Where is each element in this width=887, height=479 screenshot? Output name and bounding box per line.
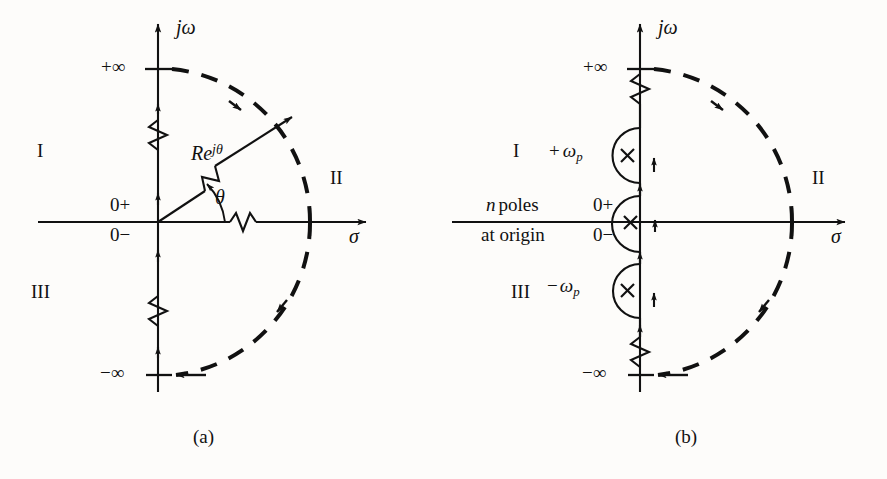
panel-a-arc-arrow-upper <box>229 101 241 110</box>
panel-b-plus-omega-p-sign: + <box>549 140 560 161</box>
panel-b-dashed-arc-upper <box>654 69 792 222</box>
panel-a-minus-infinity-label: −∞ <box>100 362 124 384</box>
panel-b-n-poles-label: npoles <box>486 194 539 216</box>
panel-a-radius-vector-exponent: jθ <box>212 142 223 157</box>
panel-a-radius-vector <box>158 117 292 222</box>
panel-b-plus-omega-p-label: +ωp <box>549 140 583 165</box>
panel-a-caption: (a) <box>193 426 214 448</box>
pole-marker-plus-omega-p <box>621 149 634 162</box>
panel-b-jomega-axis-label: jω <box>658 16 678 39</box>
nyquist-contour-figure <box>0 0 887 479</box>
panel-b-indented-contour <box>612 74 649 367</box>
panel-b-caption: (b) <box>675 426 697 448</box>
panel-b-minus-omega-p-subscript: p <box>573 284 579 299</box>
panel-b-plus-omega-p-subscript: p <box>576 149 582 164</box>
panel-b-zero-plus-label: 0+ <box>593 194 613 216</box>
panel-b-at-origin-label: at origin <box>481 224 545 246</box>
panel-b-minus-omega-p-symbol: ω <box>560 275 573 296</box>
panel-a-dashed-arc-lower <box>176 222 310 375</box>
panel-b-plus-infinity-label: +∞ <box>583 56 607 78</box>
panel-b-plus-omega-p-symbol: ω <box>563 140 576 161</box>
panel-a-sigma-axis-label: σ <box>349 225 359 248</box>
panel-b-dashed-arc-lower <box>658 222 792 375</box>
panel-a-plus-infinity-label: +∞ <box>101 56 125 78</box>
panel-a-theta-label: θ <box>215 186 225 209</box>
panel-b-minus-omega-p-sign: − <box>547 275 558 296</box>
panel-a-zero-plus-label: 0+ <box>110 194 130 216</box>
panel-a-sigma-axis <box>38 213 366 231</box>
panel-b-sigma-axis-label: σ <box>831 225 841 248</box>
panel-a-region-III-label: III <box>31 281 50 303</box>
panel-b-minus-infinity-label: −∞ <box>582 362 606 384</box>
panel-b-region-I-label: I <box>513 140 519 162</box>
panel-b-n-poles-word: poles <box>499 194 539 215</box>
panel-a-region-II-label: II <box>330 167 343 189</box>
panel-a-region-I-label: I <box>37 140 43 162</box>
panel-b-n-poles-italic-n: n <box>486 194 496 215</box>
panel-a <box>38 24 366 392</box>
panel-a-radius-vector-label: Rejθ <box>191 142 223 165</box>
panel-b-direction-arrows <box>640 158 655 337</box>
panel-a-radius-vector-base: Re <box>191 142 212 164</box>
panel-b-region-II-label: II <box>812 167 825 189</box>
panel-a-jomega-axis-label: jω <box>176 16 196 39</box>
panel-a-zero-minus-label: 0− <box>110 224 130 246</box>
panel-b-region-III-label: III <box>511 281 530 303</box>
panel-b-minus-omega-p-label: −ωp <box>547 275 580 300</box>
panel-b-arc-arrow-upper <box>711 101 723 110</box>
pole-marker-minus-omega-p <box>621 284 634 297</box>
panel-b-zero-minus-label: 0− <box>593 224 613 246</box>
